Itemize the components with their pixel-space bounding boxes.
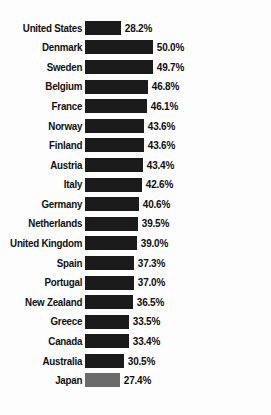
bar-category-label: Portugal <box>6 277 85 288</box>
bar <box>85 197 139 211</box>
bar-category-label: United States <box>6 23 85 34</box>
bar-row: Austria43.4% <box>0 155 271 175</box>
bar-row: Greece33.5% <box>0 312 271 332</box>
bar-row: Norway43.6% <box>0 116 271 136</box>
bar-row: France46.1% <box>0 96 271 116</box>
bar-category-label: Sweden <box>6 62 85 73</box>
bar-area: 43.6% <box>85 116 271 136</box>
bar <box>85 178 142 192</box>
bar-row: Belgium46.8% <box>0 77 271 97</box>
bar-row: Japan27.4% <box>0 371 271 391</box>
bar-row: Canada33.4% <box>0 332 271 352</box>
bar-value-label: 37.3% <box>134 258 165 269</box>
bar-area: 49.7% <box>85 57 271 77</box>
bar-row: Netherlands39.5% <box>0 214 271 234</box>
bar-area: 46.1% <box>85 96 271 116</box>
bar-category-label: Italy <box>6 179 85 190</box>
bar-row: Portugal37.0% <box>0 273 271 293</box>
bar-value-label: 43.6% <box>144 140 175 151</box>
bar <box>85 334 129 348</box>
bar <box>85 60 153 74</box>
bar-row: Australia30.5% <box>0 351 271 371</box>
bar-area: 37.0% <box>85 273 271 293</box>
bar-value-label: 43.4% <box>143 160 174 171</box>
bar-row: United States28.2% <box>0 18 271 38</box>
bar-value-label: 27.4% <box>120 375 151 386</box>
bar-category-label: Belgium <box>6 81 85 92</box>
bar-area: 27.4% <box>85 371 271 391</box>
bar-row: Spain37.3% <box>0 253 271 273</box>
bar-value-label: 36.5% <box>133 297 164 308</box>
bar-area: 46.8% <box>85 77 271 97</box>
bar <box>85 256 134 270</box>
bar-area: 30.5% <box>85 351 271 371</box>
bar-value-label: 43.6% <box>144 121 175 132</box>
bar <box>85 40 153 54</box>
bar-area: 39.0% <box>85 234 271 254</box>
bar-area: 43.6% <box>85 136 271 156</box>
bar-value-label: 37.0% <box>134 277 165 288</box>
bar-value-label: 49.7% <box>153 62 184 73</box>
bar-chart: United States28.2%Denmark50.0%Sweden49.7… <box>0 0 271 415</box>
bar-value-label: 33.4% <box>129 336 160 347</box>
bar-category-label: New Zealand <box>6 297 85 308</box>
bar-row: Finland43.6% <box>0 136 271 156</box>
bar <box>85 119 144 133</box>
bar-category-label: France <box>6 101 85 112</box>
bar-area: 33.5% <box>85 312 271 332</box>
bar-value-label: 39.0% <box>137 238 168 249</box>
bar-row: United Kingdom39.0% <box>0 234 271 254</box>
bar-area: 40.6% <box>85 194 271 214</box>
bar-area: 42.6% <box>85 175 271 195</box>
bar-value-label: 28.2% <box>121 23 152 34</box>
bar-area: 36.5% <box>85 292 271 312</box>
bar-value-label: 42.6% <box>142 179 173 190</box>
bar-row: New Zealand36.5% <box>0 292 271 312</box>
bar-category-label: Austria <box>6 160 85 171</box>
bar-category-label: Germany <box>6 199 85 210</box>
bar <box>85 315 129 329</box>
bar-category-label: Greece <box>6 316 85 327</box>
bar-row: Sweden49.7% <box>0 57 271 77</box>
bar <box>85 21 121 35</box>
bar <box>85 295 133 309</box>
bar-category-label: Denmark <box>6 42 85 53</box>
bar-area: 33.4% <box>85 332 271 352</box>
bar <box>85 373 120 387</box>
bar-category-label: Netherlands <box>6 218 85 229</box>
bar-category-label: Canada <box>6 336 85 347</box>
bar-row: Germany40.6% <box>0 194 271 214</box>
bar <box>85 80 148 94</box>
bar <box>85 99 147 113</box>
bar-area: 43.4% <box>85 155 271 175</box>
bar-category-label: Spain <box>6 258 85 269</box>
bar <box>85 158 143 172</box>
bar-area: 39.5% <box>85 214 271 234</box>
bar-area: 37.3% <box>85 253 271 273</box>
bar <box>85 138 144 152</box>
bar-row: Denmark50.0% <box>0 38 271 58</box>
bar-category-label: Norway <box>6 121 85 132</box>
bar <box>85 236 137 250</box>
bar-value-label: 46.8% <box>148 81 179 92</box>
bar-category-label: Japan <box>6 375 85 386</box>
bar <box>85 217 138 231</box>
bar-value-label: 33.5% <box>129 316 160 327</box>
bar <box>85 354 124 368</box>
bar-category-label: United Kingdom <box>6 238 85 249</box>
bar-value-label: 30.5% <box>124 356 155 367</box>
bar-category-label: Australia <box>6 356 85 367</box>
bar-value-label: 46.1% <box>147 101 178 112</box>
bar-rows-container: United States28.2%Denmark50.0%Sweden49.7… <box>0 18 271 390</box>
bar-area: 28.2% <box>85 18 271 38</box>
bar-value-label: 40.6% <box>139 199 170 210</box>
bar-area: 50.0% <box>85 38 271 58</box>
bar-value-label: 50.0% <box>153 42 184 53</box>
bar-value-label: 39.5% <box>138 218 169 229</box>
bar-row: Italy42.6% <box>0 175 271 195</box>
bar-category-label: Finland <box>6 140 85 151</box>
bar <box>85 276 134 290</box>
